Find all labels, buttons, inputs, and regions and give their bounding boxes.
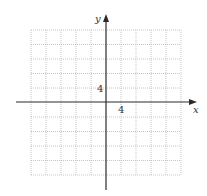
y-tick-label: 4 [97, 83, 103, 94]
y-axis-label: y [94, 13, 101, 24]
coordinate-plane: x y 4 4 [0, 0, 207, 196]
x-tick-label: 4 [118, 104, 124, 115]
y-axis-arrow-icon [103, 14, 109, 22]
x-axis-label: x [193, 104, 199, 115]
